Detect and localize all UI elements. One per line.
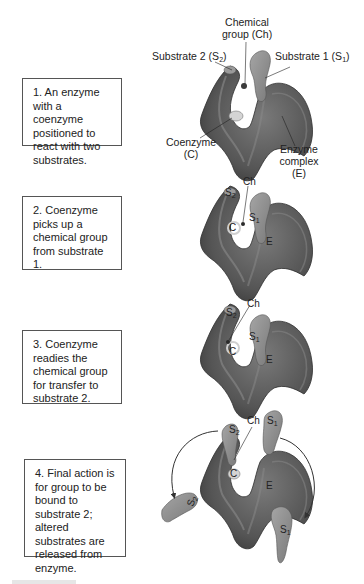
step2-description: 2. Coenzyme picks up a chemical group fr… <box>33 204 108 270</box>
chemical-group-label: Chemical group (Ch) <box>222 16 272 40</box>
c-text: C <box>229 346 236 357</box>
enzyme-label-line3: (E) <box>277 167 321 179</box>
substrate1-label: Substrate 1 (S1) <box>275 50 350 66</box>
step2-e-label: E <box>266 236 273 248</box>
step4-description-box: 4. Final action is for group to be bound… <box>24 459 126 557</box>
e-text: E <box>266 480 273 491</box>
ch-text: Ch <box>243 176 256 187</box>
step2-s1-label: S1 <box>249 212 260 227</box>
step3-s2-label: S2 <box>226 307 237 322</box>
substrate2-label-text: Substrate 2 (S <box>152 50 219 62</box>
step3-description-box: 3. Coenzyme readies the chemical group f… <box>22 330 122 404</box>
sub1-text: 1 <box>274 420 278 427</box>
enzyme-complex-label: Enzyme complex (E) <box>277 143 321 179</box>
s-text: S <box>229 424 236 435</box>
chemical-group-label-line1: Chemical <box>222 16 272 28</box>
sub1-text: 1 <box>256 217 260 224</box>
sub1-text: 1 <box>287 529 291 536</box>
s-text: S <box>280 524 287 535</box>
figure-caption-bar <box>12 580 76 584</box>
step3-enzyme <box>200 304 312 419</box>
coenzyme-label: Coenzyme (C) <box>166 136 216 160</box>
sub2-text: 2 <box>236 429 240 436</box>
step4-s1-top-label: S1 <box>267 415 278 430</box>
enzyme-label-line2: complex <box>277 155 321 167</box>
s-text: S <box>249 212 256 223</box>
step3-description: 3. Coenzyme readies the chemical group f… <box>33 338 108 404</box>
step2-c-label: C <box>229 222 236 234</box>
step2-s2-label: S2 <box>225 187 236 202</box>
step4-released-s1-label: S1 <box>280 524 291 539</box>
ch-text: Ch <box>247 415 260 426</box>
coenzyme-label-line2: (C) <box>166 148 216 160</box>
coenzyme-label-line1: Coenzyme <box>166 136 216 148</box>
chemical-group-label-line2: group (Ch) <box>222 28 272 40</box>
step4-c-label: C <box>230 468 237 480</box>
step3-s1-label: S1 <box>249 331 260 346</box>
substrate1-close-paren: ) <box>346 50 350 62</box>
step2-ch-label: Ch <box>243 176 256 188</box>
enzyme-label-line1: Enzyme <box>277 143 321 155</box>
substrate2-close-paren: ) <box>223 50 227 62</box>
step4-s2-label: S2 <box>229 424 240 439</box>
s-text: S <box>225 187 232 198</box>
c-text: C <box>230 468 237 479</box>
step2-description-box: 2. Coenzyme picks up a chemical group fr… <box>22 196 122 270</box>
step3-e-label: E <box>266 354 273 366</box>
sub2-text: 2 <box>232 192 236 199</box>
s-text: S <box>249 331 256 342</box>
ch-text: Ch <box>247 298 260 309</box>
substrate2-label: Substrate 2 (S2) <box>152 50 227 66</box>
step4-e-label: E <box>266 480 273 492</box>
sub1-text: 1 <box>256 336 260 343</box>
sub2-text: 2 <box>233 312 237 319</box>
step3-ch-label: Ch <box>247 298 260 310</box>
s-text: S <box>267 415 274 426</box>
e-text: E <box>266 354 273 365</box>
step1-description-box: 1. An enzyme with a coenzyme positioned … <box>22 78 122 146</box>
s-text: S <box>226 307 233 318</box>
step4-ch-label: Ch <box>247 415 260 427</box>
step2-enzyme <box>200 186 312 301</box>
e-text: E <box>266 236 273 247</box>
substrate1-label-text: Substrate 1 (S <box>275 50 342 62</box>
step3-c-label: C <box>229 346 236 358</box>
c-text: C <box>229 222 236 233</box>
